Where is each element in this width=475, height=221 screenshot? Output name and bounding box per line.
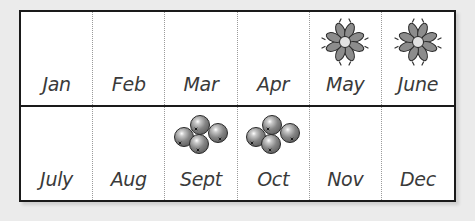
month-cell-july: July [21,107,93,200]
month-label: Aug [93,168,164,190]
berries-icon [173,111,229,155]
month-label: Sept [165,168,236,190]
month-cell-aug: Aug [93,107,165,200]
month-label: Dec [382,168,454,190]
month-label: June [382,73,454,95]
month-cell-mar: Mar [165,12,237,105]
month-cell-dec: Dec [382,107,454,200]
berries-icon [245,111,301,155]
month-label: Nov [310,168,381,190]
calendar-row-jan-june: Jan Feb Mar Apr May June [21,12,454,107]
month-cell-jan: Jan [21,12,93,105]
flower-icon [321,18,369,66]
month-cell-june: June [382,12,454,105]
flower-icon [394,18,442,66]
month-label: May [310,73,381,95]
month-cell-sept: Sept [165,107,237,200]
month-label: Apr [238,73,309,95]
month-label: Jan [21,73,92,95]
month-cell-feb: Feb [93,12,165,105]
calendar-row-july-dec: July Aug Sept Oct Nov Dec [21,107,454,200]
month-label: Feb [93,73,164,95]
month-label: Oct [238,168,309,190]
month-cell-apr: Apr [238,12,310,105]
month-cell-oct: Oct [238,107,310,200]
month-cell-nov: Nov [310,107,382,200]
month-label: Mar [165,73,236,95]
month-cell-may: May [310,12,382,105]
month-label: July [21,168,92,190]
seasonal-calendar: Jan Feb Mar Apr May June July Aug Sept [19,10,456,202]
